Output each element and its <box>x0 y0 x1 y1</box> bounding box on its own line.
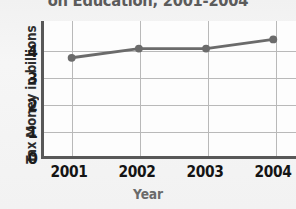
chart-title-clip: on Education, 2001-2004 <box>0 0 296 12</box>
y-tick-label: 0 <box>16 152 38 167</box>
chart-figure: on Education, 2001-2004 Tax Money in bil… <box>0 0 296 209</box>
data-point <box>68 54 76 62</box>
x-axis-title-text: Year <box>133 186 163 202</box>
y-tick-label: 2 <box>16 99 38 114</box>
x-tick-label-text: 2003 <box>187 163 224 181</box>
x-tick-label-text: 2004 <box>255 163 292 181</box>
x-tick-label: 2001 <box>39 163 99 181</box>
x-axis-title: Year <box>0 186 296 202</box>
chart-title: on Education, 2001-2004 <box>12 0 284 10</box>
x-tick-label-text: 2001 <box>51 163 88 181</box>
x-tick-label-text: 2002 <box>119 163 156 181</box>
data-series-line <box>44 21 296 156</box>
y-tick-label: 3 <box>16 72 38 87</box>
x-tick-label: 2003 <box>175 163 235 181</box>
y-tick-label: 1 <box>16 126 38 141</box>
x-tick-label: 2004 <box>243 163 296 181</box>
data-point <box>269 35 277 43</box>
x-tick-label: 2002 <box>107 163 167 181</box>
data-point <box>135 45 143 53</box>
y-tick-label: 4 <box>16 45 38 60</box>
y-axis-ticks: 4 3 2 1 0 <box>14 0 38 209</box>
data-point <box>202 45 210 53</box>
plot-area <box>41 21 296 159</box>
series-polyline <box>72 39 274 57</box>
